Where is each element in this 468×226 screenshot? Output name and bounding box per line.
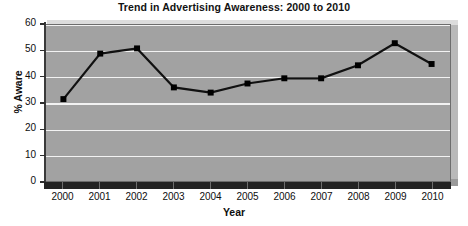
y-axis-tick (40, 129, 45, 131)
data-point-marker (429, 61, 435, 67)
x-axis-tick (99, 182, 101, 189)
y-axis-tick (40, 50, 45, 52)
x-axis-tick (173, 182, 175, 189)
x-axis-tick (247, 182, 249, 189)
data-point-marker (97, 51, 103, 57)
data-point-marker (208, 90, 214, 96)
chart-title: Trend in Advertising Awareness: 2000 to … (0, 1, 468, 13)
x-axis-bar (44, 182, 451, 189)
data-point-marker (318, 75, 324, 81)
y-axis-tick (40, 76, 45, 78)
x-axis-title: Year (0, 206, 468, 218)
series-line-percent-aware (63, 43, 431, 99)
data-point-marker (171, 84, 177, 90)
data-point-marker (392, 40, 398, 46)
x-axis-tick-label: 2010 (411, 191, 455, 202)
y-axis-tick-label: 0 (12, 175, 36, 186)
x-axis-bar-end-cap (451, 179, 458, 186)
x-axis-tick (358, 182, 360, 189)
x-axis-tick (62, 182, 64, 189)
y-axis-tick (40, 155, 45, 157)
plot-frame-right-shadow (451, 23, 458, 186)
x-axis-tick (321, 182, 323, 189)
series-markers-percent-aware (60, 40, 434, 102)
y-axis-tick (40, 102, 45, 104)
data-point-marker (134, 45, 140, 51)
y-axis-tick (40, 23, 45, 25)
x-axis-tick (136, 182, 138, 189)
series-layer (45, 25, 450, 181)
data-point-marker (281, 75, 287, 81)
x-axis-tick (284, 182, 286, 189)
data-point-marker (245, 81, 251, 87)
plot-area (44, 24, 451, 182)
y-axis-tick-label: 60 (12, 17, 36, 28)
x-axis-tick (395, 182, 397, 189)
line-chart-figure: Trend in Advertising Awareness: 2000 to … (0, 0, 468, 226)
x-axis-tick (210, 182, 212, 189)
x-axis-tick (432, 182, 434, 189)
y-axis-title: % Aware (12, 52, 24, 132)
data-point-marker (355, 62, 361, 68)
plot-frame (44, 20, 458, 186)
y-axis-tick-label: 10 (12, 149, 36, 160)
data-point-marker (60, 96, 66, 102)
